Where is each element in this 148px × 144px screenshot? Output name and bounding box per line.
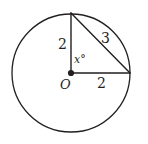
radius-horizontal-label: 2 (97, 76, 106, 90)
center-dot-icon (68, 70, 74, 76)
chord-label: 3 (101, 31, 110, 45)
angle-measure-label: x° (74, 54, 86, 65)
center-point-label: O (60, 78, 71, 91)
radius-vertical-label: 2 (58, 37, 67, 51)
geometry-figure: 2 3 2 O x° (0, 0, 148, 144)
geometry-canvas (0, 0, 148, 144)
